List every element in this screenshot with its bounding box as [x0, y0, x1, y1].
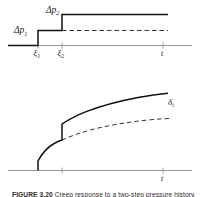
top-panel-group: Δp1 Δp2 ξ1 ξ2 t — [8, 5, 192, 59]
top-panel-label-delta-p1-base: Δp — [13, 25, 25, 35]
top-panel-ticklabel-xi2: ξ2 — [58, 48, 65, 59]
bottom-panel-group: δt t — [8, 93, 192, 182]
figure-caption-label: FIGURE 3.20 — [12, 191, 53, 197]
top-panel-ticklabel-xi1-subscript: 1 — [37, 53, 40, 59]
top-panel-label-delta-p2-base: Δp — [45, 5, 57, 15]
top-panel-ticklabel-t: t — [161, 49, 164, 58]
top-panel-label-delta-p1-subscript: 1 — [24, 30, 27, 37]
top-panel-label-delta-p1: Δp1 — [13, 25, 28, 36]
figure-container: Δp1 Δp2 ξ1 ξ2 t — [0, 0, 200, 197]
top-panel-ticklabel-xi1: ξ1 — [34, 48, 41, 59]
bottom-panel-label-delta-t: δt — [168, 97, 174, 108]
figure-caption-text: Creep response to a two-step pressure hi… — [55, 191, 196, 197]
figure-caption: FIGURE 3.20 Creep response to a two-step… — [12, 191, 198, 197]
top-panel-ticklabel-xi2-subscript: 2 — [61, 53, 64, 59]
bottom-panel-label-delta-t-subscript: t — [172, 102, 174, 108]
top-panel-label-delta-p2: Δp2 — [45, 5, 60, 16]
bottom-panel-ticklabel-t: t — [161, 174, 164, 183]
top-panel-label-delta-p2-subscript: 2 — [56, 9, 60, 16]
bottom-panel-creep-curve — [38, 93, 168, 170]
figure-graphic: Δp1 Δp2 ξ1 ξ2 t — [0, 0, 200, 197]
bottom-panel-dashed-curve — [62, 118, 172, 140]
